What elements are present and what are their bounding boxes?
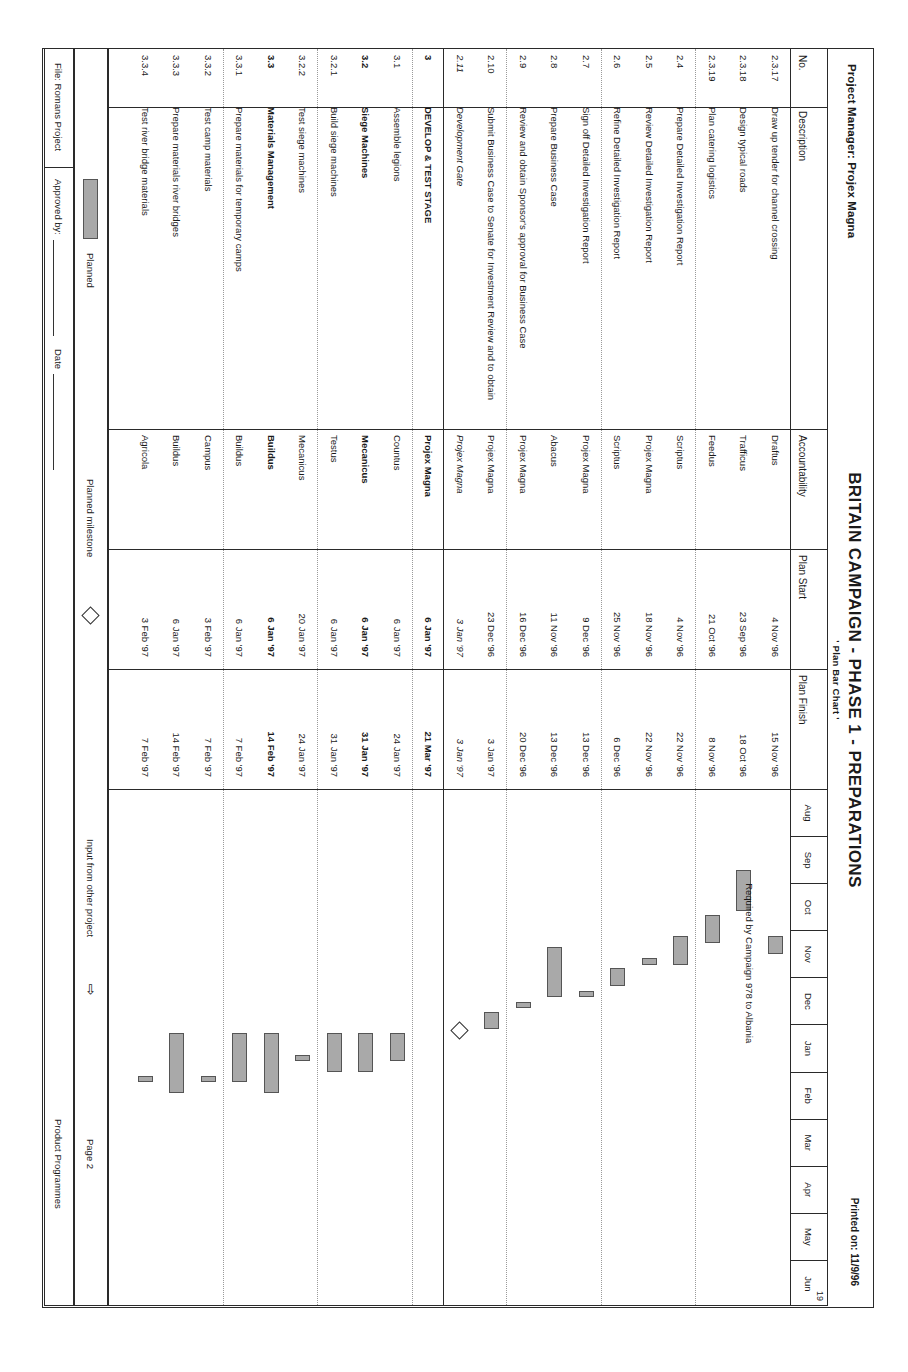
table-row[interactable]: 3.1Assemble legionsCountus6 Jan '9724 Ja… (382, 49, 414, 1305)
month-label: Dec (804, 993, 815, 1010)
month-header-feb: Feb (791, 1072, 827, 1119)
gantt-bar[interactable] (390, 1033, 405, 1060)
gantt-bar[interactable] (611, 968, 626, 986)
table-row[interactable]: 3.3.4Test river bridge materialsAgricola… (130, 49, 162, 1305)
row-description-cell: Prepare Detailed Investigation Report (665, 107, 697, 429)
row-plan-start-cell: 11 Nov '96 (539, 549, 571, 669)
legend-strip: Planned Planned milestone Input from oth… (74, 48, 108, 1306)
row-number-cell: 2.3.18 (728, 49, 760, 107)
table-row[interactable]: 3.2.1Build siege machinesTestus6 Jan '97… (319, 49, 351, 1305)
table-row[interactable]: 2.8Prepare Business CaseAbacus11 Nov '96… (539, 49, 571, 1305)
row-plan-start-cell: 4 Nov '96 (665, 549, 697, 669)
table-row[interactable]: 3.2Siege MachinesMecanicus6 Jan '9731 Ja… (350, 49, 382, 1305)
month-header-dec: Dec (791, 977, 827, 1024)
gantt-chart-page: Project Manager: Projex Magna BRITAIN CA… (0, 0, 908, 1372)
row-guide-line (412, 49, 413, 1305)
gantt-bar[interactable] (233, 1033, 248, 1082)
row-description-cell: Prepare materials for temporary camps (224, 107, 256, 429)
month-label: Jun (804, 1276, 815, 1291)
footer-strip: File: Romans Project Approved by: Date P… (44, 48, 74, 1306)
table-row[interactable]: 2.10Submit Business Case to Senate for I… (476, 49, 508, 1305)
row-number-cell: 3.3.4 (130, 49, 162, 107)
row-accountability-cell: Abacus (539, 429, 571, 549)
row-plan-finish-cell: 24 Jan '97 (287, 669, 319, 789)
gantt-bar[interactable] (170, 1033, 185, 1092)
table-row[interactable]: 2.5Review Detailed Investigation ReportP… (634, 49, 666, 1305)
row-plan-finish-cell: 6 Dec '96 (602, 669, 634, 789)
row-number-cell: 3.2.1 (319, 49, 351, 107)
table-row[interactable]: 2.7Sign off Detailed Investigation Repor… (571, 49, 603, 1305)
row-description-cell: Assemble legions (382, 107, 414, 429)
table-row[interactable]: 3.2.2Test siege machinesMecanicus20 Jan … (287, 49, 319, 1305)
gantt-bar[interactable] (327, 1033, 342, 1071)
row-plan-start-cell: 23 Sep '96 (728, 549, 760, 669)
row-plan-start-cell: 6 Jan '97 (413, 549, 445, 669)
month-header-jan: Jan (791, 1024, 827, 1071)
month-label: Aug (804, 805, 815, 822)
row-plan-finish-cell: 31 Jan '97 (350, 669, 382, 789)
gantt-bar[interactable] (485, 1012, 500, 1029)
row-description-cell: Siege Machines (350, 107, 382, 429)
gantt-bar[interactable] (674, 936, 689, 964)
legend-input-label: Input from other project (75, 839, 107, 937)
gantt-bar[interactable] (705, 915, 720, 943)
approved-by-signature-line[interactable] (54, 240, 65, 336)
row-accountability-cell: Projex Magna (413, 429, 445, 549)
scanned-page-viewport: Project Manager: Projex Magna BRITAIN CA… (0, 0, 908, 1372)
row-description-cell: Prepare materials river bridges (161, 107, 193, 429)
gantt-bar[interactable] (768, 936, 783, 953)
row-plan-finish-cell: 20 Dec '96 (508, 669, 540, 789)
col-header-accountability-text: Accountability (797, 435, 808, 497)
table-row[interactable]: 2.3.17Draw up tender for channel crossin… (760, 49, 792, 1305)
row-plan-start-cell: 4 Nov '96 (760, 549, 792, 669)
stage-separator-line (444, 49, 445, 1305)
table-row[interactable]: 3.3.2Test camp materialsCampus3 Feb '977… (193, 49, 225, 1305)
gantt-bar[interactable] (264, 1033, 279, 1092)
table-row[interactable]: 3.3.1Prepare materials for temporary cam… (224, 49, 256, 1305)
year-label: 19 (815, 1291, 825, 1301)
row-plan-start-cell: 6 Jan '97 (224, 549, 256, 669)
gantt-bar[interactable] (579, 991, 594, 997)
planned-milestone-diamond-icon (82, 606, 100, 624)
row-number-cell: 3.2 (350, 49, 382, 107)
gantt-bar[interactable] (516, 1002, 531, 1008)
month-label: Jan (804, 1041, 815, 1056)
gantt-bar[interactable] (138, 1076, 153, 1082)
row-plan-finish-cell: 7 Feb '97 (193, 669, 225, 789)
row-accountability-cell: Scriptus (665, 429, 697, 549)
row-plan-start-cell: 21 Oct '96 (697, 549, 729, 669)
row-description-cell: Test river bridge materials (130, 107, 162, 429)
row-number-cell: 3.1 (382, 49, 414, 107)
gantt-bar[interactable] (548, 947, 563, 997)
table-row[interactable]: 2.6Refine Detailed Investigation ReportS… (602, 49, 634, 1305)
table-row[interactable]: 2.3.18Design typical roadsTrafficus23 Se… (728, 49, 760, 1305)
row-number-cell: 3.2.2 (287, 49, 319, 107)
row-number-cell: 2.8 (539, 49, 571, 107)
table-row[interactable]: 2.3.19Plan catering logisticsFeedus21 Oc… (697, 49, 729, 1305)
row-number-cell: 2.5 (634, 49, 666, 107)
table-row[interactable]: 2.4Prepare Detailed Investigation Report… (665, 49, 697, 1305)
gantt-bar[interactable] (296, 1055, 311, 1061)
chart-area-divider (109, 789, 827, 790)
gantt-bar[interactable] (359, 1033, 374, 1071)
table-row[interactable]: 2.11Development GateProjex Magna3 Jan '9… (445, 49, 477, 1305)
row-plan-start-cell: 6 Jan '97 (319, 549, 351, 669)
table-row[interactable]: 3DEVELOP & TEST STAGEProjex Magna6 Jan '… (413, 49, 445, 1305)
row-accountability-cell: Mecanicus (287, 429, 319, 549)
row-accountability-cell: Trafficus (728, 429, 760, 549)
row-description-cell: Submit Business Case to Senate for Inves… (476, 107, 508, 429)
legend-planned-label: Planned (75, 253, 107, 288)
row-number-cell: 2.4 (665, 49, 697, 107)
table-row[interactable]: 3.3Materials ManagementBuildus6 Jan '971… (256, 49, 288, 1305)
month-header-nov: Nov (791, 930, 827, 977)
date-signature-line[interactable] (54, 374, 65, 470)
month-header-sep: Sep (791, 836, 827, 883)
row-description-cell: DEVELOP & TEST STAGE (413, 107, 445, 429)
row-description-cell: Development Gate (445, 107, 477, 429)
gantt-bar[interactable] (642, 958, 657, 965)
month-label: Nov (804, 946, 815, 963)
gantt-bar[interactable] (201, 1076, 216, 1082)
table-row[interactable]: 2.9Review and obtain Sponsor's approval … (508, 49, 540, 1305)
input-arrow-icon: ⇨ (84, 984, 98, 996)
table-row[interactable]: 3.3.3Prepare materials river bridgesBuil… (161, 49, 193, 1305)
